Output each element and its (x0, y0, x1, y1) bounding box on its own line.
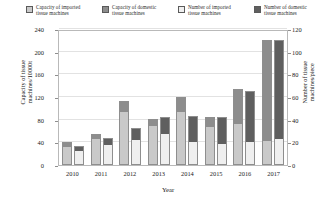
bar-capacity (205, 117, 215, 165)
y-tick-mark-right (288, 53, 291, 54)
y-tick-mark-right (288, 75, 291, 76)
segment-number-imported (189, 142, 197, 164)
y-tick-label-left: 0 (18, 162, 44, 169)
y-tick-mark-left (55, 143, 58, 144)
legend-swatch-icon (26, 6, 33, 13)
y-tick-label-right: 20 (292, 139, 318, 146)
y-tick-mark-right (288, 121, 291, 122)
bar-group (259, 31, 288, 165)
segment-number-imported (75, 151, 83, 164)
y-tick-label-left: 40 (18, 139, 44, 146)
segment-capacity-imported (206, 127, 214, 164)
chart-figure: Capacity of imported tissue machines Cap… (0, 0, 336, 202)
gridline (59, 28, 287, 29)
segment-capacity-domestic (177, 98, 185, 112)
segment-number-domestic (161, 118, 169, 133)
bar-capacity (148, 119, 158, 165)
bar-number (160, 117, 170, 165)
bar-group (173, 31, 202, 165)
segment-capacity-imported (92, 139, 100, 164)
y-tick-label-right: 100 (292, 49, 318, 56)
bar-number (131, 128, 141, 165)
legend-label: Number of imported tissue machines (188, 4, 231, 16)
segment-number-domestic (246, 92, 254, 142)
segment-number-domestic (132, 129, 140, 141)
segment-number-domestic (75, 147, 83, 151)
y-tick-mark-left (55, 121, 58, 122)
segment-capacity-domestic (63, 143, 71, 147)
y-tick-mark-left (55, 30, 58, 31)
legend-label: Capacity of imported tissue machines (36, 4, 80, 16)
bar-capacity (233, 89, 243, 165)
segment-capacity-domestic (206, 118, 214, 127)
legend-item-capacity-domestic: Capacity of domestic tissue machines (102, 4, 156, 16)
segment-capacity-imported (120, 112, 128, 164)
legend-item-capacity-imported: Capacity of imported tissue machines (26, 4, 80, 16)
bar-group (59, 31, 88, 165)
y-tick-mark-right (288, 30, 291, 31)
segment-number-imported (132, 140, 140, 164)
bar-capacity (119, 101, 129, 165)
segment-capacity-domestic (234, 90, 242, 124)
y-tick-label-left: 80 (18, 117, 44, 124)
bar-group (88, 31, 117, 165)
y-tick-mark-left (55, 53, 58, 54)
bar-number (74, 146, 84, 165)
segment-number-imported (104, 145, 112, 164)
segment-capacity-imported (234, 124, 242, 164)
segment-number-domestic (189, 117, 197, 142)
y-tick-mark-left (55, 98, 58, 99)
bar-capacity (176, 97, 186, 165)
bar-capacity (91, 134, 101, 165)
bar-series-container (59, 31, 287, 165)
segment-number-domestic (275, 41, 283, 139)
bar-group (230, 31, 259, 165)
bar-group (202, 31, 231, 165)
segment-number-imported (275, 139, 283, 164)
bar-capacity (262, 40, 272, 165)
segment-capacity-imported (63, 147, 71, 164)
bar-capacity (62, 142, 72, 165)
segment-capacity-imported (149, 126, 157, 164)
legend-item-number-domestic: Number of domestic tissue machines (254, 4, 307, 16)
y-tick-mark-left (55, 166, 58, 167)
x-axis-title: Year (0, 186, 336, 193)
y-tick-label-right: 80 (292, 71, 318, 78)
legend-label: Capacity of domestic tissue machines (112, 4, 156, 16)
y-tick-label-left: 120 (18, 94, 44, 101)
legend-item-number-imported: Number of imported tissue machines (178, 4, 231, 16)
segment-capacity-domestic (120, 102, 128, 112)
legend-label: Number of domestic tissue machines (264, 4, 307, 16)
chart-legend: Capacity of imported tissue machines Cap… (26, 4, 326, 24)
segment-number-domestic (104, 139, 112, 145)
y-tick-mark-right (288, 166, 291, 167)
segment-capacity-domestic (92, 135, 100, 139)
y-tick-label-right: 0 (292, 162, 318, 169)
y-tick-mark-left (55, 75, 58, 76)
bar-number (245, 91, 255, 165)
y-tick-label-left: 240 (18, 26, 44, 33)
bar-number (188, 116, 198, 165)
segment-number-imported (218, 144, 226, 164)
bar-group (145, 31, 174, 165)
segment-capacity-imported (177, 112, 185, 164)
segment-capacity-imported (263, 141, 271, 164)
legend-swatch-icon (178, 6, 185, 13)
y-tick-mark-right (288, 143, 291, 144)
legend-swatch-icon (102, 6, 109, 13)
y-tick-label-left: 160 (18, 71, 44, 78)
legend-swatch-icon (254, 6, 261, 13)
segment-capacity-domestic (263, 41, 271, 140)
bar-number (103, 138, 113, 165)
y-tick-label-left: 200 (18, 49, 44, 56)
segment-number-domestic (218, 118, 226, 144)
bar-group (116, 31, 145, 165)
segment-number-imported (246, 142, 254, 164)
y-tick-label-right: 40 (292, 117, 318, 124)
y-tick-label-right: 120 (292, 26, 318, 33)
x-tick-label: 2017 (254, 170, 294, 177)
y-tick-label-right: 60 (292, 94, 318, 101)
bar-number (274, 40, 284, 165)
bar-number (217, 117, 227, 165)
segment-capacity-domestic (149, 120, 157, 127)
